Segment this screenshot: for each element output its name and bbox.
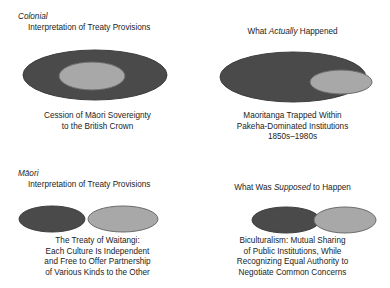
caption-line: and Free to Offer Partnership	[0, 257, 195, 268]
caption-line: Each Culture Is Independent	[0, 247, 195, 258]
caption-line: Recognizing Equal Authority to	[195, 257, 390, 268]
caption-line: 1850s–1980s	[195, 132, 390, 143]
panel-what-was-supposed: What Was Supposed to Happen Biculturalis…	[195, 150, 390, 288]
right-light-ellipse	[88, 206, 158, 232]
caption-line: of Various Kinds to the Other	[0, 268, 195, 279]
inner-light-ellipse	[59, 62, 125, 90]
caption-line: Negotiate Common Concerns	[195, 268, 390, 279]
panel-what-actually-happened: What Actually Happened Maoritanga Trappe…	[195, 0, 390, 144]
caption-line: Cession of Māori Sovereignty	[0, 111, 195, 122]
caption-actually: Maoritanga Trapped Within Pakeha-Dominat…	[195, 111, 390, 143]
caption-line: Maoritanga Trapped Within	[195, 111, 390, 122]
right-light-ellipse	[314, 207, 376, 233]
caption-supposed: Biculturalism: Mutual Sharing of Public …	[195, 236, 390, 278]
inner-light-ellipse	[310, 70, 372, 94]
caption-colonial: Cession of Māori Sovereignty to the Brit…	[0, 111, 195, 132]
panel-maori-interpretation: Māori Interpretation of Treaty Provision…	[0, 150, 195, 288]
treaty-venn-figure: Colonial Interpretation of Treaty Provis…	[0, 0, 390, 288]
caption-line: Pakeha-Dominated Institutions	[195, 122, 390, 133]
caption-line: The Treaty of Waitangi:	[0, 236, 195, 247]
left-dark-ellipse	[252, 207, 320, 233]
caption-maori: The Treaty of Waitangi: Each Culture Is …	[0, 236, 195, 278]
caption-line: to the British Crown	[0, 122, 195, 133]
caption-line: Biculturalism: Mutual Sharing	[195, 236, 390, 247]
panel-colonial-interpretation: Colonial Interpretation of Treaty Provis…	[0, 0, 195, 144]
caption-line: of Public Institutions, While	[195, 247, 390, 258]
left-dark-ellipse	[19, 206, 85, 232]
